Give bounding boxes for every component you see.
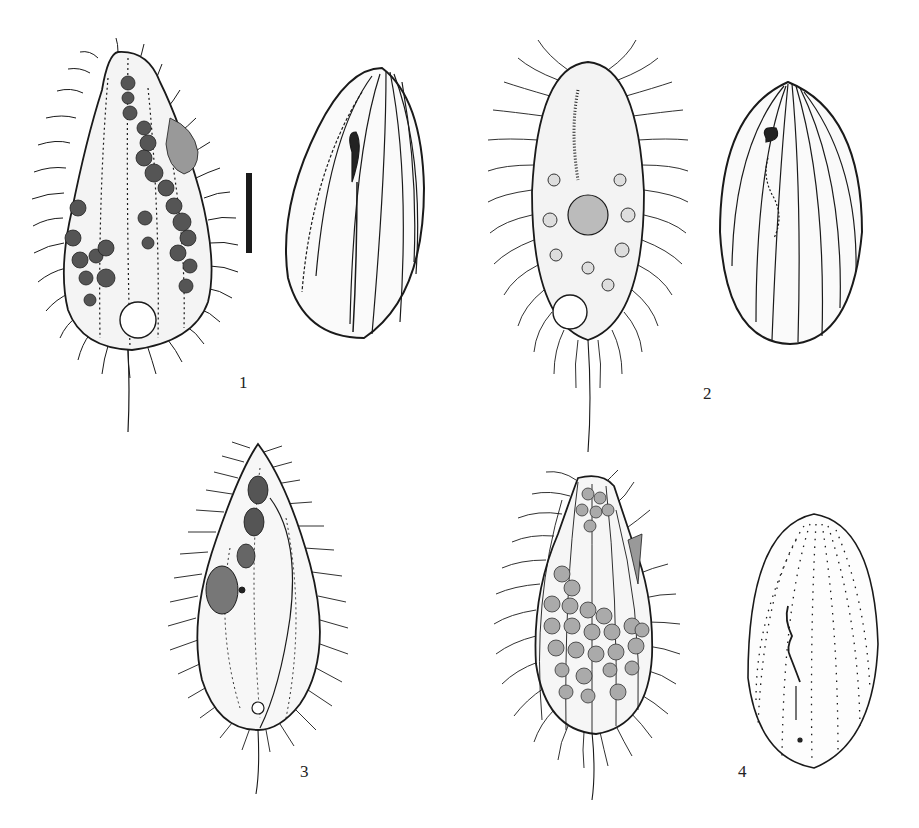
caudal-cilium <box>592 732 594 800</box>
contractile-vacuole <box>252 702 264 714</box>
figure-2-ciliary-pattern <box>718 78 868 348</box>
figure-1-ciliary-pattern <box>282 62 432 347</box>
figure-label-1: 1 <box>239 373 248 393</box>
figure-label-4: 4 <box>738 762 747 782</box>
figure-2-cell-ciliated <box>488 40 688 460</box>
caudal-cilium <box>256 730 259 794</box>
contractile-vacuole <box>553 295 587 329</box>
figure-1-cell-ciliated <box>28 38 248 438</box>
contractile-vacuole <box>120 302 156 338</box>
figure-label-3: 3 <box>300 762 309 782</box>
caudal-cilium <box>128 350 129 432</box>
macronucleus <box>206 566 238 614</box>
figure-4-silverline-pattern <box>744 510 884 780</box>
cell-outline <box>720 82 862 344</box>
figure-4-cell-ciliated <box>492 470 692 810</box>
scale-bar <box>246 173 252 253</box>
figure-label-2: 2 <box>703 384 712 404</box>
cell-outline <box>748 514 878 768</box>
caudal-cilium <box>588 340 590 452</box>
macronucleus <box>568 195 608 235</box>
figure-3-cell-ciliated <box>160 438 360 798</box>
figure-plate: 1 <box>0 0 919 828</box>
